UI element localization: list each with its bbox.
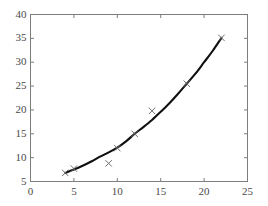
x-tick-label: 15 (146, 186, 176, 197)
fitted-curve (65, 38, 221, 173)
x-tick-label: 0 (16, 186, 46, 197)
fit-curve-path (65, 38, 221, 173)
x-tick-label: 25 (233, 186, 263, 197)
axes-frame (31, 15, 248, 182)
data-point-marker (131, 131, 137, 137)
y-tick-label: 40 (16, 9, 27, 20)
x-tick-label: 5 (59, 186, 89, 197)
y-tick-label: 20 (16, 104, 27, 115)
data-point-marker (218, 35, 224, 41)
data-point-markers (62, 35, 225, 176)
x-tick-label: 10 (102, 186, 132, 197)
y-tick-label: 10 (16, 152, 27, 163)
plot-border (31, 15, 248, 182)
x-tick-label: 20 (189, 186, 219, 197)
y-tick-label: 15 (16, 128, 27, 139)
chart-figure: 510152025303540 0510152025 (0, 0, 268, 206)
y-tick-label: 25 (16, 80, 27, 91)
data-point-marker (184, 80, 190, 86)
tick-marks (31, 15, 248, 182)
data-point-marker (105, 160, 111, 166)
plot-canvas (0, 0, 268, 206)
data-point-marker (149, 108, 155, 114)
y-tick-label: 35 (16, 32, 27, 43)
y-tick-label: 30 (16, 56, 27, 67)
